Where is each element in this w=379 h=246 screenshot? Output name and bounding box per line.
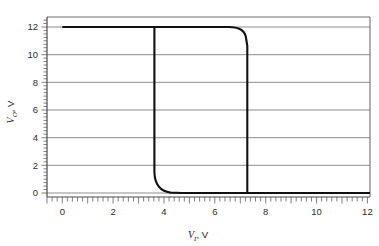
x-tick-label-0: 0 — [60, 206, 65, 217]
x-tick-label-2: 2 — [110, 206, 115, 217]
x-tick-label-10: 10 — [311, 206, 322, 217]
hysteresis-transfer-characteristic-plot: 0 2 4 6 8 10 12 0 2 4 6 8 10 12 VI, V VO… — [0, 0, 379, 246]
chart-figure: 0 2 4 6 8 10 12 0 2 4 6 8 10 12 VI, V VO… — [0, 0, 379, 246]
y-tick-label-0: 0 — [33, 187, 38, 198]
chart-background — [0, 0, 379, 246]
x-tick-label-6: 6 — [212, 206, 217, 217]
y-tick-label-8: 8 — [33, 77, 38, 88]
x-tick-label-4: 4 — [161, 206, 166, 217]
x-tick-label-8: 8 — [263, 206, 268, 217]
y-tick-label-4: 4 — [33, 132, 38, 143]
x-tick-label-12: 12 — [362, 206, 373, 217]
y-tick-label-2: 2 — [33, 160, 38, 171]
y-tick-label-6: 6 — [33, 104, 38, 115]
y-tick-label-10: 10 — [27, 49, 38, 60]
y-tick-label-12: 12 — [27, 21, 38, 32]
